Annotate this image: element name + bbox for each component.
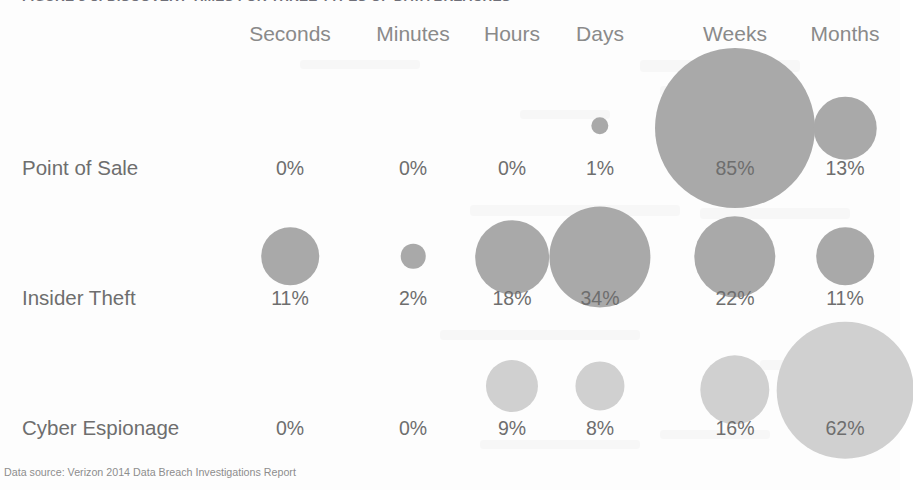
column-header-weeks: Weeks bbox=[703, 22, 767, 46]
value-point-of-sale-days: 1% bbox=[586, 157, 614, 180]
column-header-months: Months bbox=[811, 22, 880, 46]
value-cyber-espionage-hours: 9% bbox=[498, 417, 526, 440]
bubble-insider-theft-hours bbox=[475, 220, 549, 294]
value-cyber-espionage-seconds: 0% bbox=[276, 417, 304, 440]
value-insider-theft-hours: 18% bbox=[492, 287, 531, 310]
value-insider-theft-days: 34% bbox=[580, 287, 619, 310]
value-insider-theft-weeks: 22% bbox=[715, 287, 754, 310]
row-label-cyber-espionage: Cyber Espionage bbox=[22, 416, 179, 440]
scan-artifact bbox=[440, 330, 640, 340]
row-label-point-of-sale: Point of Sale bbox=[22, 156, 138, 180]
data-source-note: Data source: Verizon 2014 Data Breach In… bbox=[4, 466, 296, 478]
scan-artifact bbox=[480, 440, 640, 449]
bubble-point-of-sale-days bbox=[591, 117, 608, 134]
value-point-of-sale-hours: 0% bbox=[498, 157, 526, 180]
column-header-seconds: Seconds bbox=[249, 22, 331, 46]
bubble-insider-theft-seconds bbox=[261, 227, 319, 285]
value-cyber-espionage-days: 8% bbox=[586, 417, 614, 440]
row-label-insider-theft: Insider Theft bbox=[22, 286, 136, 310]
bubble-cyber-espionage-days bbox=[575, 361, 624, 410]
value-point-of-sale-months: 13% bbox=[825, 157, 864, 180]
value-cyber-espionage-weeks: 16% bbox=[715, 417, 754, 440]
scan-artifact bbox=[300, 60, 420, 69]
value-cyber-espionage-minutes: 0% bbox=[399, 417, 427, 440]
value-cyber-espionage-months: 62% bbox=[825, 417, 864, 440]
value-insider-theft-seconds: 11% bbox=[271, 287, 309, 310]
value-point-of-sale-seconds: 0% bbox=[276, 157, 304, 180]
column-header-minutes: Minutes bbox=[376, 22, 450, 46]
value-point-of-sale-weeks: 85% bbox=[715, 157, 754, 180]
value-point-of-sale-minutes: 0% bbox=[399, 157, 427, 180]
value-insider-theft-minutes: 2% bbox=[399, 287, 427, 310]
bubble-insider-theft-weeks bbox=[694, 216, 775, 297]
bubble-cyber-espionage-hours bbox=[486, 360, 538, 412]
bubble-cyber-espionage-weeks bbox=[700, 355, 769, 424]
figure-title: FIGURE 3-8: DISCOVERY TIMES FOR THREE TY… bbox=[22, 0, 511, 4]
bubble-point-of-sale-weeks bbox=[655, 48, 815, 208]
column-header-days: Days bbox=[576, 22, 624, 46]
column-header-hours: Hours bbox=[484, 22, 540, 46]
value-insider-theft-months: 11% bbox=[826, 287, 864, 310]
bubble-insider-theft-months bbox=[816, 227, 874, 285]
bubble-insider-theft-minutes bbox=[401, 244, 426, 269]
bubble-point-of-sale-months bbox=[814, 97, 877, 160]
